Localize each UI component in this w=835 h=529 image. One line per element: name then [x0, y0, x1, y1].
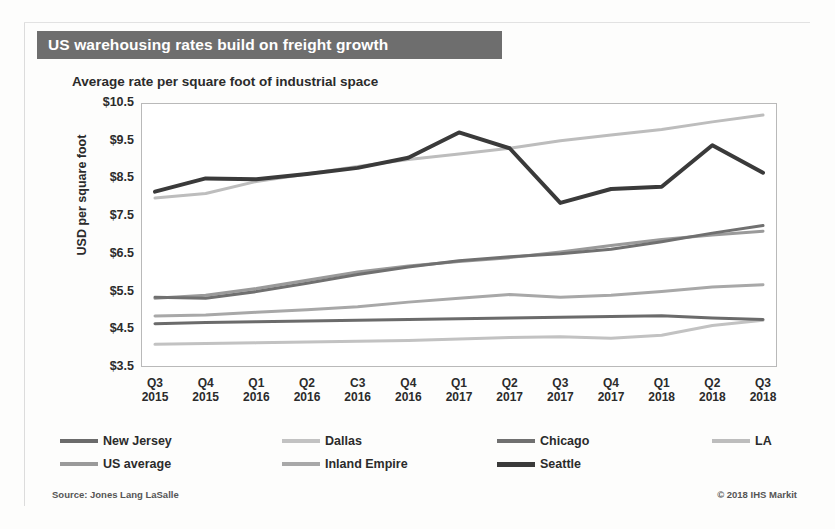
source-note: Source: Jones Lang LaSalle: [52, 489, 179, 500]
x-tick-quarter: Q2: [481, 376, 539, 390]
x-tick-year: 2017: [531, 390, 589, 404]
x-tick-label: Q12017: [430, 376, 488, 404]
legend-label: US average: [103, 457, 171, 471]
legend-item-la[interactable]: LA: [712, 432, 772, 450]
x-tick-quarter: Q4: [177, 376, 235, 390]
y-tick-label: $7.5: [78, 208, 134, 222]
x-tick-label: Q42015: [177, 376, 235, 404]
x-tick-year: 2016: [278, 390, 336, 404]
legend-item-us-average[interactable]: US average: [60, 455, 171, 473]
x-tick-quarter: Q3: [126, 376, 184, 390]
legend-swatch: [282, 462, 320, 466]
series-line-dallas: [155, 320, 763, 344]
x-tick-label: Q32017: [531, 376, 589, 404]
chart-legend: New JerseyDallasChicagoLAUS averageInlan…: [60, 432, 800, 476]
y-tick-label: $8.5: [78, 170, 134, 184]
scan-edge-left: [24, 22, 25, 506]
x-tick-label: Q32018: [734, 376, 792, 404]
x-tick-year: 2018: [683, 390, 741, 404]
legend-swatch: [712, 439, 750, 443]
x-tick-year: 2016: [227, 390, 285, 404]
x-tick-year: 2016: [379, 390, 437, 404]
chart-figure: US warehousing rates build on freight gr…: [0, 0, 835, 529]
legend-swatch: [497, 462, 535, 467]
y-tick-label: $6.5: [78, 246, 134, 260]
x-tick-label: Q42016: [379, 376, 437, 404]
legend-item-dallas[interactable]: Dallas: [282, 432, 362, 450]
x-tick-quarter: Q3: [734, 376, 792, 390]
chart-lines: [141, 103, 777, 367]
legend-item-seattle[interactable]: Seattle: [497, 455, 581, 473]
x-tick-year: 2016: [329, 390, 387, 404]
y-tick-label: $9.5: [78, 133, 134, 147]
x-tick-label: Q12016: [227, 376, 285, 404]
x-tick-label: Q22017: [481, 376, 539, 404]
legend-label: Dallas: [325, 434, 362, 448]
legend-label: Inland Empire: [325, 457, 408, 471]
x-tick-label: Q32015: [126, 376, 184, 404]
x-tick-year: 2015: [177, 390, 235, 404]
x-tick-quarter: Q1: [227, 376, 285, 390]
x-tick-year: 2018: [633, 390, 691, 404]
x-tick-quarter: C3: [329, 376, 387, 390]
legend-label: LA: [755, 434, 772, 448]
series-line-chicago: [155, 226, 763, 299]
x-tick-quarter: Q4: [379, 376, 437, 390]
y-tick-label: $5.5: [78, 284, 134, 298]
x-tick-label: Q22018: [683, 376, 741, 404]
x-tick-year: 2017: [481, 390, 539, 404]
y-tick-label: $10.5: [78, 95, 134, 109]
x-tick-label: Q42017: [582, 376, 640, 404]
x-tick-label: Q12018: [633, 376, 691, 404]
legend-swatch: [282, 439, 320, 443]
x-tick-quarter: Q4: [582, 376, 640, 390]
legend-label: Chicago: [540, 434, 589, 448]
y-tick-label: $4.5: [78, 321, 134, 335]
x-tick-quarter: Q1: [430, 376, 488, 390]
legend-swatch: [497, 439, 535, 443]
series-line-seattle: [155, 132, 763, 203]
x-tick-label: C32016: [329, 376, 387, 404]
x-tick-year: 2017: [430, 390, 488, 404]
legend-item-new-jersey[interactable]: New Jersey: [60, 432, 172, 450]
x-tick-year: 2017: [582, 390, 640, 404]
credit-note: © 2018 IHS Markit: [717, 489, 797, 500]
x-tick-quarter: Q2: [683, 376, 741, 390]
y-tick-label: $3.5: [78, 359, 134, 373]
x-tick-quarter: Q3: [531, 376, 589, 390]
legend-swatch: [60, 462, 98, 466]
x-tick-quarter: Q1: [633, 376, 691, 390]
legend-label: Seattle: [540, 457, 581, 471]
legend-swatch: [60, 439, 98, 443]
legend-label: New Jersey: [103, 434, 172, 448]
legend-item-inland-empire[interactable]: Inland Empire: [282, 455, 408, 473]
scan-edge-top: [24, 22, 810, 23]
x-tick-label: Q22016: [278, 376, 336, 404]
legend-item-chicago[interactable]: Chicago: [497, 432, 589, 450]
series-line-new-jersey: [155, 316, 763, 324]
x-tick-year: 2018: [734, 390, 792, 404]
x-tick-year: 2015: [126, 390, 184, 404]
series-line-la: [155, 115, 763, 198]
x-tick-quarter: Q2: [278, 376, 336, 390]
